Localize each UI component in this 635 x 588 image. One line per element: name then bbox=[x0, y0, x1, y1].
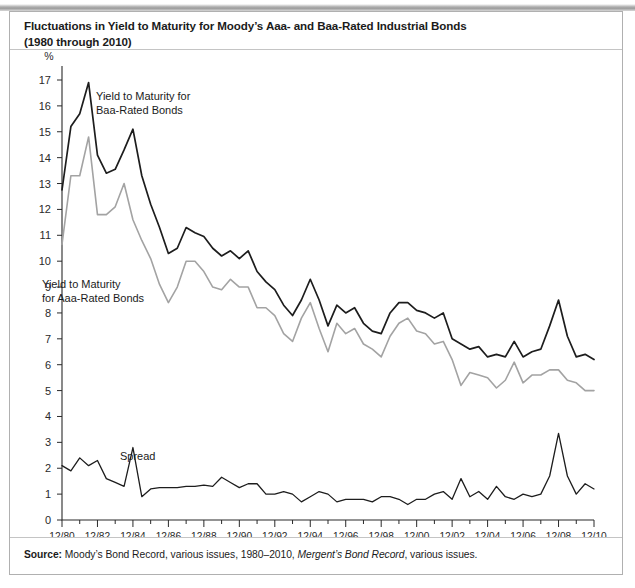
source-text-a: Moody’s Bond Record, various issues, 198… bbox=[62, 549, 297, 560]
y-tick-label: 0 bbox=[45, 514, 51, 526]
annotation-baa-line-1: Yield to Maturity for bbox=[96, 90, 191, 102]
plot-area: 01234567891011121314151617%12/8012/8212/… bbox=[10, 50, 622, 537]
y-tick-label: 10 bbox=[39, 255, 51, 267]
source-text-italic: Mergent’s Bond Record bbox=[297, 549, 404, 560]
line-chart: 01234567891011121314151617%12/8012/8212/… bbox=[10, 50, 622, 537]
figure-title-block: Fluctuations in Yield to Maturity for Mo… bbox=[10, 12, 622, 50]
y-tick-label: 14 bbox=[39, 152, 51, 164]
figure-container: Fluctuations in Yield to Maturity for Mo… bbox=[9, 11, 623, 575]
y-tick-label: 6 bbox=[45, 359, 51, 371]
source-text-b: , various issues. bbox=[404, 549, 477, 560]
title-line-1: Fluctuations in Yield to Maturity for Mo… bbox=[24, 18, 604, 34]
source-label: Source: bbox=[24, 549, 62, 560]
y-tick-label: 3 bbox=[45, 436, 51, 448]
y-tick-label: 5 bbox=[45, 385, 51, 397]
figure-source-block: Source: Moody’s Bond Record, various iss… bbox=[10, 537, 622, 574]
y-tick-label: 1 bbox=[45, 488, 51, 500]
y-tick-label: 12 bbox=[39, 203, 51, 215]
annotation-spread-line-1: Spread bbox=[120, 450, 155, 462]
y-tick-label: 8 bbox=[45, 307, 51, 319]
series-line-spread bbox=[62, 433, 594, 504]
annotation-baa-line-2: Baa-Rated Bonds bbox=[96, 104, 183, 116]
y-tick-label: 15 bbox=[39, 126, 51, 138]
y-tick-label: 17 bbox=[39, 74, 51, 86]
y-tick-label: 4 bbox=[45, 410, 51, 422]
y-tick-label: 2 bbox=[45, 462, 51, 474]
top-gray-band bbox=[0, 4, 635, 11]
page-title: Fluctuations in Yield to Maturity for Mo… bbox=[24, 18, 604, 49]
title-line-2: (1980 through 2010) bbox=[24, 34, 604, 50]
y-axis-unit-label: % bbox=[44, 50, 53, 62]
y-tick-label: 11 bbox=[40, 229, 51, 241]
series-line-baa bbox=[62, 83, 594, 360]
y-tick-label: 13 bbox=[39, 178, 51, 190]
y-tick-label: 7 bbox=[45, 333, 51, 345]
source-note: Source: Moody’s Bond Record, various iss… bbox=[24, 549, 477, 560]
figure-page: Fluctuations in Yield to Maturity for Mo… bbox=[0, 0, 635, 588]
annotation-aaa-line-2: for Aaa-Rated Bonds bbox=[42, 292, 145, 304]
annotation-aaa-line-1: Yield to Maturity bbox=[42, 278, 121, 290]
y-tick-label: 16 bbox=[39, 100, 51, 112]
